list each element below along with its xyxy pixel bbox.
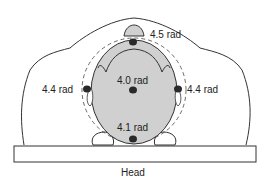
dosimeter-dot-bottom [129, 136, 137, 143]
measurement-label-right: 4.4 rad [187, 85, 218, 95]
diagram-graphic [0, 0, 268, 187]
dosimeter-dot-right [174, 86, 182, 93]
table [14, 146, 256, 162]
dosimeter-dot-top [129, 39, 137, 46]
dose-diagram: 4.5 rad 4.0 rad 4.4 rad 4.4 rad 4.1 rad … [0, 0, 268, 187]
dosimeter-dot-center [129, 87, 137, 94]
diagram-caption: Head [121, 168, 145, 178]
measurement-label-bottom: 4.1 rad [117, 123, 148, 133]
measurement-label-left: 4.4 rad [42, 85, 73, 95]
measurement-label-top: 4.5 rad [150, 30, 181, 40]
measurement-label-center: 4.0 rad [117, 76, 148, 86]
dosimeter-dot-left [83, 86, 91, 93]
